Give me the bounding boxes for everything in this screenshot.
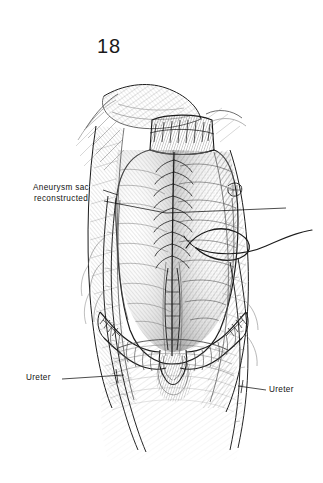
callout-aneurysm-sac: Aneurysm sac reconstructed <box>13 183 109 204</box>
callout-aneurysm-line2: reconstructed <box>13 194 109 205</box>
callout-aneurysm-line1: Aneurysm sac <box>13 183 109 194</box>
surgical-illustration <box>0 0 323 483</box>
callout-ureter-left: Ureter <box>26 373 51 384</box>
figure-number: 18 <box>97 36 121 56</box>
callout-ureter-right: Ureter <box>269 385 294 396</box>
illustration-page: 18 Aneurysm sac reconstructed Ureter Ure… <box>0 0 323 483</box>
proximal-aortic-cuff <box>150 115 214 154</box>
